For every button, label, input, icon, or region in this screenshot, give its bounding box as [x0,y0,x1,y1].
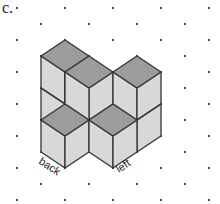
grid-dot [88,23,90,25]
grid-dot [112,7,114,9]
isometric-figure: back left [0,0,220,204]
grid-dot [184,119,186,121]
grid-dot [160,167,162,169]
grid-dot [112,199,114,201]
grid-dot [208,71,210,73]
grid-dot [208,7,210,9]
grid-dot [64,199,66,201]
grid-dot [136,183,138,185]
grid-dot [184,183,186,185]
grid-dot [64,7,66,9]
grid-dot [208,103,210,105]
grid-dot [160,199,162,201]
grid-dot [184,87,186,89]
grid-dot [208,167,210,169]
cube-structure [41,40,161,168]
grid-dot [16,103,18,105]
grid-dot [16,167,18,169]
grid-dot [184,55,186,57]
grid-dot [112,39,114,41]
grid-dot [16,39,18,41]
grid-dot [208,199,210,201]
grid-dot [136,23,138,25]
grid-dot [160,7,162,9]
grid-dot [16,7,18,9]
grid-dot [208,39,210,41]
grid-dot [88,183,90,185]
grid-dot [184,23,186,25]
grid-dot [16,199,18,201]
grid-dot [208,135,210,137]
grid-dot [40,183,42,185]
grid-dot [184,151,186,153]
grid-dot [40,23,42,25]
grid-dot [160,39,162,41]
grid-dot [16,135,18,137]
grid-dot [16,71,18,73]
